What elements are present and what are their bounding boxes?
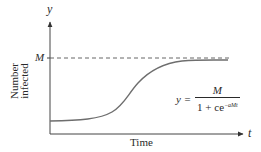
y-axis-symbol: y [47,2,52,17]
formula-exponent: −aMt [224,102,238,108]
chart-canvas [0,0,261,152]
formula-lhs: y = [176,93,191,105]
formula-numerator: M [211,85,224,97]
y-axis-label: Number infected [4,58,34,104]
formula-fraction: M 1 + ce−aMt [195,85,240,113]
formula-denominator: 1 + ce−aMt [195,97,240,113]
x-axis-label: Time [130,136,153,148]
t-axis-symbol: t [248,126,251,141]
logistic-formula: y = M 1 + ce−aMt [176,85,240,113]
formula-den-base: 1 + ce [197,101,224,113]
y-axis-label-line2: infected [19,63,29,99]
asymptote-label: M [35,51,44,63]
